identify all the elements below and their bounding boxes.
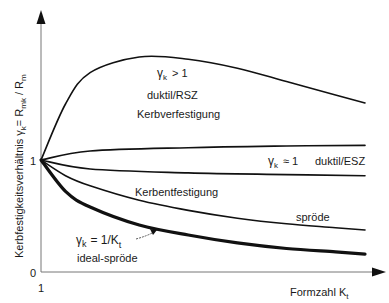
y-tick-label-1: 1 (30, 155, 36, 167)
y-axis-label: Kerbfestigkeitsverhältnis γk= Rmk / Rm (13, 74, 28, 258)
x-axis-label: Formzahl Kt (290, 286, 349, 301)
annotation-pointer-arrowhead-icon (150, 229, 157, 235)
y-tick-label-0: 0 (30, 267, 36, 279)
annotation-pointer-arrow (136, 232, 154, 239)
annotation-sproede: spröde (296, 211, 330, 223)
x-tick-label-1: 1 (38, 282, 44, 294)
annotation-gamma-eq-1-over-kt: γk= 1/Kt (76, 233, 122, 250)
x-axis-arrow-icon (372, 268, 386, 277)
annotation-duktil-rsz: duktil/RSZ (147, 89, 198, 101)
y-axis-arrow-icon (37, 10, 46, 24)
annotation-kerbentfestigung: Kerbentfestigung (135, 186, 218, 198)
chart: 0 1 1 Formzahl Kt Kerbfestigkeitsverhält… (0, 0, 389, 303)
annotation-kerbverfestigung: Kerbverfestigung (137, 108, 220, 120)
annotation-ideal-sproede: ideal-spröde (77, 252, 138, 264)
annotation-gamma-approx-1: γk≈ 1 (268, 154, 298, 170)
annotation-duktil-esz: duktil/ESZ (315, 155, 365, 167)
annotation-gamma-gt-1: γk> 1 (157, 66, 188, 82)
